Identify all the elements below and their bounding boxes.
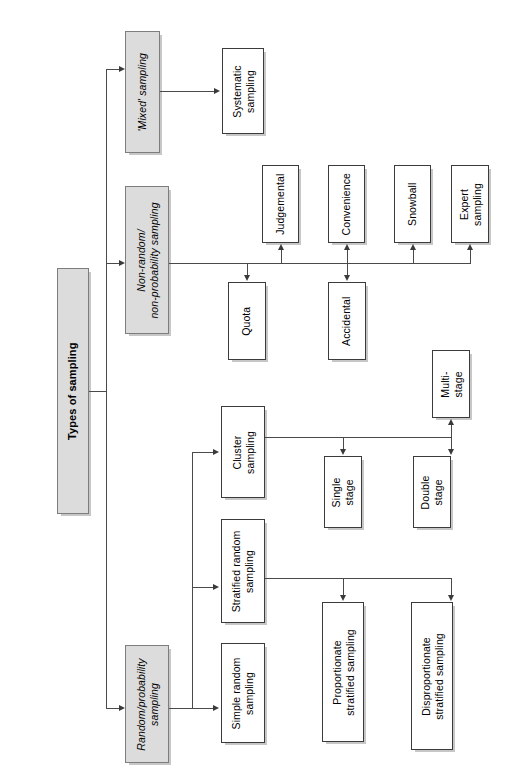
node-single-stage: Single stage	[324, 456, 362, 528]
arrow-proportionate	[340, 595, 346, 601]
node-label: Types of sampling	[67, 342, 80, 439]
node-types-of-sampling: Types of sampling	[57, 268, 89, 514]
arrow-judgemental	[278, 244, 284, 250]
connector-root-trunk	[106, 69, 107, 709]
node-label: Accidental	[341, 296, 354, 345]
node-label: Proportionate stratified sampling	[331, 629, 356, 716]
arrow-to-stratified	[213, 584, 219, 590]
node-accidental: Accidental	[328, 282, 366, 360]
arrow-doublestage	[448, 449, 454, 455]
connector-nonrandom-bus	[169, 263, 471, 264]
connector-disproportionate	[451, 578, 452, 596]
connector-to-nonrandom	[106, 263, 120, 264]
connector-to-simple	[192, 708, 214, 709]
node-systematic-sampling: Systematic sampling	[222, 48, 264, 134]
node-label: Stratified random sampling	[231, 530, 256, 612]
arrow-to-systematic	[214, 88, 220, 94]
node-simple-random-sampling: Simple random sampling	[221, 643, 265, 743]
connector-to-cluster	[192, 452, 214, 453]
connector-root-stub	[89, 391, 107, 392]
diagram-canvas: Types of sampling 'Mixed' sampling Syste…	[0, 0, 522, 771]
arrow-disproportionate	[448, 595, 454, 601]
node-cluster-sampling: Cluster sampling	[221, 406, 265, 498]
node-label: Convenience	[340, 173, 353, 235]
node-snowball: Snowball	[394, 165, 431, 243]
connector-convenience	[347, 250, 348, 263]
connector-to-random	[106, 708, 120, 709]
connector-judgemental	[281, 250, 282, 263]
node-label: 'Mixed' sampling	[136, 53, 149, 132]
node-expert-sampling: Expert sampling	[451, 165, 489, 243]
node-double-stage: Double stage	[413, 456, 451, 528]
arrow-snowball	[410, 244, 416, 250]
node-label: Judgemental	[274, 173, 287, 234]
node-label: Double stage	[420, 475, 445, 509]
arrow-multistage	[448, 419, 454, 425]
connector-expert	[470, 250, 471, 263]
node-label: Snowball	[406, 182, 419, 225]
node-non-random-sampling: Non-random/ non-probability sampling	[125, 186, 169, 334]
node-quota: Quota	[228, 282, 266, 360]
node-label: Expert sampling	[458, 183, 483, 226]
arrow-accidental	[344, 275, 350, 281]
node-disproportionate-stratified-sampling: Disproportionate stratified sampling	[411, 602, 453, 750]
node-label: Simple random sampling	[231, 657, 256, 729]
connector-mixed-to-systematic	[160, 91, 215, 92]
connector-cluster-bus	[265, 437, 452, 438]
node-label: Non-random/ non-probability sampling	[135, 202, 160, 318]
node-label: Quota	[241, 306, 254, 335]
arrow-singlestage	[340, 449, 346, 455]
connector-random-stub	[169, 708, 193, 709]
node-multi-stage: Multi- stage	[432, 350, 470, 418]
node-label: Multi- stage	[438, 371, 463, 397]
node-judgemental: Judgemental	[262, 165, 299, 243]
connector-random-bus	[192, 452, 193, 709]
connector-to-mixed	[106, 69, 120, 70]
arrow-convenience	[344, 244, 350, 250]
arrow-expert	[467, 244, 473, 250]
node-random-sampling: Random/probability sampling	[125, 645, 169, 763]
node-mixed-sampling: 'Mixed' sampling	[125, 31, 160, 153]
node-stratified-random-sampling: Stratified random sampling	[221, 519, 265, 623]
node-label: Random/probability sampling	[135, 658, 160, 750]
connector-to-stratified	[192, 587, 214, 588]
node-label: Cluster sampling	[231, 431, 256, 474]
connector-snowball	[413, 250, 414, 263]
node-proportionate-stratified-sampling: Proportionate stratified sampling	[322, 602, 364, 742]
arrow-to-simple	[213, 705, 219, 711]
arrow-to-cluster	[213, 449, 219, 455]
arrow-quota	[244, 275, 250, 281]
node-convenience: Convenience	[328, 165, 365, 243]
node-label: Systematic sampling	[231, 65, 256, 117]
connector-proportionate	[343, 578, 344, 596]
connector-stratified-bus	[265, 578, 452, 579]
node-label: Disproportionate stratified sampling	[420, 633, 445, 720]
node-label: Single stage	[330, 477, 355, 507]
